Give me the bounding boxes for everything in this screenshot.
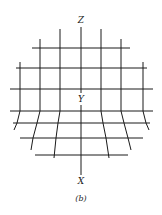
vertical-grid-line (14, 62, 20, 130)
figure-caption: (b) (75, 194, 86, 203)
z-axis-label: Z (77, 15, 85, 25)
vertical-grid-line (143, 62, 149, 130)
distorted-grid-diagram: Z Y X (b) (0, 0, 162, 215)
x-axis-label: X (77, 176, 85, 186)
vertical-grid-line (31, 39, 40, 150)
y-axis-label: Y (78, 94, 85, 104)
vertical-grid-line (121, 39, 131, 150)
